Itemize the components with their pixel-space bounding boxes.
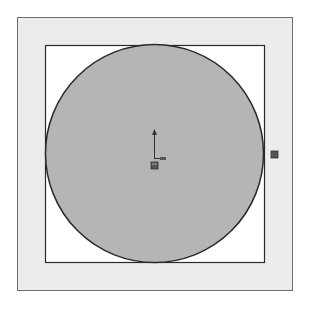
sketch-canvas[interactable] bbox=[0, 0, 310, 311]
constraint-marker-icon[interactable] bbox=[271, 151, 278, 158]
sketch-drawing bbox=[0, 0, 310, 311]
